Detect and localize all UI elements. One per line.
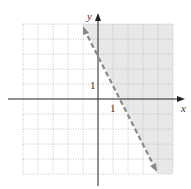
y-axis-arrow-icon (95, 13, 101, 21)
y-axis-label: y (86, 10, 92, 22)
y-tick-label: 1 (90, 79, 96, 91)
inequality-graph: y x 1 1 (0, 0, 191, 189)
line-arrow-bottom-icon (150, 163, 157, 172)
x-tick-label: 1 (110, 102, 116, 114)
x-axis-label: x (180, 102, 186, 114)
